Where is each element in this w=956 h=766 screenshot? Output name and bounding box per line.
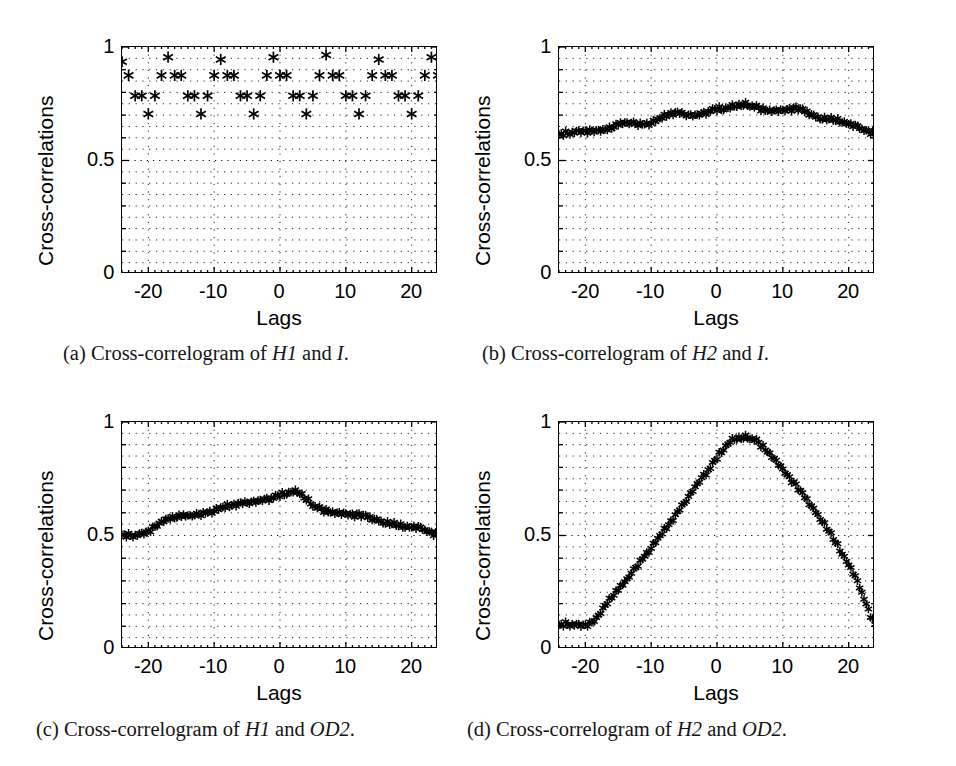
panel-d-caption-text: Cross-correlogram of: [496, 718, 677, 740]
panel-c-caption-post: .: [350, 718, 355, 740]
panel-b-xtick-20: 20: [837, 280, 859, 303]
panel-a-ytick-0: 0: [78, 261, 114, 284]
panel-a-ytick-05: 0.5: [64, 148, 114, 171]
panel-c-ytick-1: 1: [78, 410, 114, 433]
panel-d-ytick-1: 1: [515, 410, 551, 433]
panel-b-caption-post: .: [764, 342, 769, 364]
panel-c-caption-text: Cross-correlogram of: [64, 718, 245, 740]
panel-b-ytick-05: 0.5: [501, 148, 551, 171]
panel-a-xtick--20: -20: [134, 280, 162, 303]
panel-c-ytick-05: 0.5: [64, 523, 114, 546]
panel-a-xtick-10: 10: [334, 280, 356, 303]
panel-d-caption-post: .: [782, 718, 787, 740]
panel-d-ytick-05: 0.5: [501, 523, 551, 546]
panel-a-caption-tag: (a): [63, 342, 86, 364]
panel-a-caption: (a) Cross-correlogram of H1 and I.: [63, 342, 349, 365]
panel-b-xtick--20: -20: [571, 280, 599, 303]
panel-d-caption: (d) Cross-correlogram of H2 and OD2.: [467, 718, 787, 741]
panel-c-xtick-10: 10: [334, 655, 356, 678]
panel-d-caption-tag: (d): [467, 718, 491, 740]
panel-b-axes: [558, 46, 874, 273]
panel-b: Cross-correlations 1 0.5 0 -20 -10 0 10 …: [437, 0, 956, 383]
panel-b-caption-tag: (b): [482, 342, 506, 364]
panel-d-xtick-10: 10: [771, 655, 793, 678]
panel-c-caption-var2: OD2: [310, 718, 350, 740]
panel-d-xlabel: Lags: [693, 681, 739, 705]
panel-c-xtick-0: 0: [274, 655, 285, 678]
panel-b-xtick-10: 10: [771, 280, 793, 303]
panel-d-xtick-0: 0: [711, 655, 722, 678]
panel-b-ylabel: Cross-correlations: [471, 96, 495, 266]
panel-b-ytick-1: 1: [515, 35, 551, 58]
panel-d-xtick--20: -20: [571, 655, 599, 678]
panel-b-caption-var2: I: [757, 342, 764, 364]
panel-c-ytick-0: 0: [78, 636, 114, 659]
panel-c-caption-mid: and: [270, 718, 310, 740]
panel-c-xlabel: Lags: [256, 681, 302, 705]
panel-c: Cross-correlations 1 0.5 0 -20 -10 0 10 …: [0, 375, 478, 766]
panel-a-xtick--10: -10: [199, 280, 227, 303]
panel-d-caption-mid: and: [702, 718, 742, 740]
panel-b-plot-area: [559, 47, 874, 273]
panel-b-caption-var1: H2: [692, 342, 717, 364]
panel-a-axes: [121, 46, 437, 273]
panel-a-xtick-0: 0: [274, 280, 285, 303]
panel-d-ytick-0: 0: [515, 636, 551, 659]
panel-a: Cross-correlations 1 0.5 0 -20 -10 0 10 …: [0, 0, 478, 383]
panel-b-caption: (b) Cross-correlogram of H2 and I.: [482, 342, 769, 365]
panel-c-xtick--20: -20: [134, 655, 162, 678]
panel-d-xtick-20: 20: [837, 655, 859, 678]
panel-a-xlabel: Lags: [256, 306, 302, 330]
panel-d-caption-var1: H2: [677, 718, 702, 740]
panel-a-caption-mid: and: [297, 342, 337, 364]
panel-c-ylabel: Cross-correlations: [34, 471, 58, 641]
panel-a-ytick-1: 1: [78, 35, 114, 58]
panel-d-axes: [558, 421, 874, 648]
panel-a-caption-var1: H1: [272, 342, 297, 364]
panel-a-caption-post: .: [344, 342, 349, 364]
panel-c-xtick-20: 20: [400, 655, 422, 678]
panel-b-caption-text: Cross-correlogram of: [511, 342, 692, 364]
panel-a-caption-var2: I: [337, 342, 344, 364]
panel-b-ytick-0: 0: [515, 261, 551, 284]
panel-b-caption-mid: and: [717, 342, 757, 364]
panel-d-plot-area: [559, 422, 874, 648]
panel-a-caption-text: Cross-correlogram of: [91, 342, 272, 364]
panel-d-ylabel: Cross-correlations: [471, 471, 495, 641]
panel-b-xtick-0: 0: [711, 280, 722, 303]
panel-d-xtick--10: -10: [636, 655, 664, 678]
panel-c-caption: (c) Cross-correlogram of H1 and OD2.: [36, 718, 355, 741]
panel-a-ylabel: Cross-correlations: [34, 96, 58, 266]
panel-c-xtick--10: -10: [199, 655, 227, 678]
panel-b-xtick--10: -10: [636, 280, 664, 303]
panel-c-caption-tag: (c): [36, 718, 59, 740]
figure-cross-correlograms: Cross-correlations 1 0.5 0 -20 -10 0 10 …: [0, 0, 956, 766]
panel-b-xlabel: Lags: [693, 306, 739, 330]
panel-a-xtick-20: 20: [400, 280, 422, 303]
panel-c-plot-area: [122, 422, 437, 648]
panel-a-plot-area: [122, 47, 437, 273]
panel-d-caption-var2: OD2: [742, 718, 782, 740]
panel-c-axes: [121, 421, 437, 648]
panel-c-caption-var1: H1: [245, 718, 270, 740]
panel-d: Cross-correlations 1 0.5 0 -20 -10 0 10 …: [437, 375, 956, 766]
